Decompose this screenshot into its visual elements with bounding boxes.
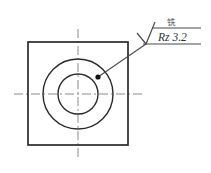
drawing-svg: 铣 Rz 3.2 [0,0,211,173]
leader-line [98,44,146,77]
surface-roughness-symbol-icon [137,22,155,44]
technical-drawing-canvas: 铣 Rz 3.2 [0,0,211,173]
process-label: 铣 [167,17,176,27]
reference-dot-icon [95,74,100,79]
roughness-label: Rz 3.2 [157,31,187,43]
